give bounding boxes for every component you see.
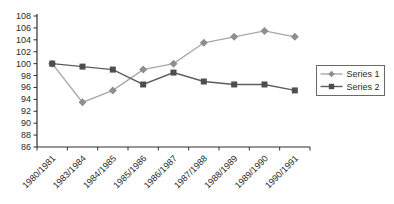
legend: Series 1Series 2 — [317, 66, 385, 96]
series-1-point-diamond-marker — [200, 39, 208, 47]
series-1-point-diamond-marker — [230, 33, 238, 41]
y-axis-tick-label: 86 — [21, 142, 31, 152]
series-2-point-square-marker — [80, 64, 86, 70]
series-1-point-diamond-marker — [261, 27, 269, 35]
series-2-point-square-marker — [231, 81, 237, 87]
y-axis-tick-label: 96 — [21, 82, 31, 92]
y-axis-tick-label: 104 — [16, 35, 31, 45]
series-1-point-diamond-marker — [170, 60, 178, 68]
series-2-point-square-marker — [201, 79, 207, 85]
x-axis-label: 1990/1991 — [263, 153, 300, 190]
series-2-point-square-marker — [171, 70, 177, 76]
y-axis-tick-label: 94 — [21, 94, 31, 104]
legend-entry-label: Series 2 — [347, 82, 380, 92]
y-axis-tick-label: 88 — [21, 130, 31, 140]
y-axis-tick-label: 108 — [16, 11, 31, 21]
y-axis-tick-label: 90 — [21, 118, 31, 128]
series-2-line — [52, 64, 295, 91]
series-2-point-square-marker — [262, 81, 268, 87]
series-2-point-square-marker — [110, 67, 116, 73]
y-axis-tick-label: 100 — [16, 59, 31, 69]
legend-square-marker-icon — [329, 84, 334, 89]
series-1-point-diamond-marker — [139, 66, 147, 74]
legend-entry-label: Series 1 — [347, 69, 380, 79]
series-2-point-square-marker — [292, 87, 298, 93]
series-1-point-diamond-marker — [291, 33, 299, 41]
y-axis-tick-label: 98 — [21, 71, 31, 81]
y-axis-tick-label: 92 — [21, 106, 31, 116]
series-2-point-square-marker — [140, 81, 146, 87]
line-chart: 868890929496981001021041061081980/198119… — [0, 0, 394, 204]
y-axis-tick-label: 102 — [16, 47, 31, 57]
series-1-point-diamond-marker — [109, 86, 117, 94]
line-chart-figure: 868890929496981001021041061081980/198119… — [0, 0, 394, 204]
y-axis-tick-label: 106 — [16, 23, 31, 33]
series-2-point-square-marker — [49, 61, 55, 67]
